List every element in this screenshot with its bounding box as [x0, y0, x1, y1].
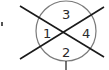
region-label-1: 1 [43, 26, 51, 41]
quadrant-diagram: 1 2 3 4 [0, 0, 109, 70]
edge-mark [1, 22, 3, 26]
region-label-3: 3 [62, 7, 70, 22]
region-label-2: 2 [62, 45, 70, 60]
region-label-4: 4 [82, 26, 90, 41]
